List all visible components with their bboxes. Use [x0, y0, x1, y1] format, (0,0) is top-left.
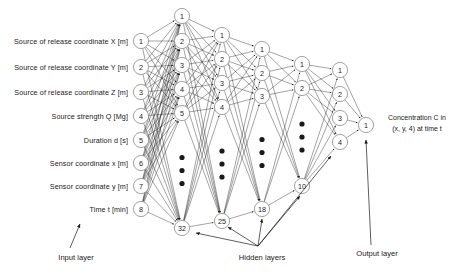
node-input-layer-7: 7: [133, 178, 148, 193]
svg-text:25: 25: [218, 217, 226, 226]
svg-text:1: 1: [300, 60, 304, 69]
svg-text:2: 2: [220, 55, 224, 64]
input-label-2: Source of release coordinate Y [m]: [14, 63, 128, 72]
input-label-7: Sensor coordinate y [m]: [50, 182, 128, 191]
svg-text:6: 6: [139, 159, 143, 168]
caption-hidden-layers: Hidden layers: [239, 253, 285, 262]
node-input-layer-2: 2: [133, 59, 148, 74]
svg-text:1: 1: [338, 66, 342, 75]
node-output-layer-2: 2: [332, 86, 347, 101]
svg-text:1: 1: [139, 37, 143, 46]
node-hidden-layer-3-18: 18: [254, 201, 269, 216]
node-output-layer-4: 4: [332, 134, 347, 149]
svg-text:7: 7: [139, 182, 143, 191]
node-final-output-1: 1: [358, 117, 373, 132]
caption-input-layer: Input layer: [58, 253, 93, 262]
node-hidden-layer-1-5: 5: [174, 105, 189, 120]
node-output-layer-1: 1: [332, 62, 347, 77]
svg-text:4: 4: [180, 85, 184, 94]
node-input-layer-6: 6: [133, 155, 148, 170]
node-hidden-layer-1-1: 1: [174, 8, 189, 23]
svg-text:2: 2: [338, 90, 342, 99]
input-label-8: Time t [min]: [90, 205, 128, 214]
node-hidden-layer-3-1: 1: [254, 41, 269, 56]
node-hidden-layer-2-4: 4: [214, 99, 229, 114]
input-label-4: Source strength Q [Mg]: [51, 112, 128, 121]
caption-output-layer: Output layer: [356, 249, 397, 258]
svg-text:5: 5: [139, 136, 143, 145]
svg-text:10: 10: [298, 182, 306, 191]
node-hidden-layer-1-2: 2: [174, 33, 189, 48]
svg-text:1: 1: [220, 31, 224, 40]
node-hidden-layer-3-3: 3: [254, 88, 269, 103]
node-input-layer-8: 8: [133, 201, 148, 216]
node-hidden-layer-4-2: 2: [294, 80, 309, 95]
node-hidden-layer-2-25: 25: [214, 213, 229, 228]
node-hidden-layer-2-2: 2: [214, 51, 229, 66]
svg-text:4: 4: [338, 138, 342, 147]
svg-text:1: 1: [180, 12, 184, 21]
svg-text:3: 3: [220, 79, 224, 88]
svg-text:8: 8: [139, 205, 143, 214]
svg-text:4: 4: [220, 103, 224, 112]
neural-network-diagram: 12345678123453212342512318121012341 Sour…: [0, 0, 471, 279]
node-hidden-layer-1-32: 32: [174, 220, 189, 235]
input-label-3: Source of release coordinate Z [m]: [14, 88, 128, 97]
node-hidden-layer-2-1: 1: [214, 27, 229, 42]
node-input-layer-4: 4: [133, 108, 148, 123]
output-label-line1: Concentration C in: [388, 114, 446, 121]
svg-text:18: 18: [258, 205, 266, 214]
node-input-layer-1: 1: [133, 33, 148, 48]
svg-text:3: 3: [338, 114, 342, 123]
node-hidden-layer-1-4: 4: [174, 81, 189, 96]
svg-text:3: 3: [139, 88, 143, 97]
svg-text:2: 2: [139, 63, 143, 72]
svg-text:2: 2: [180, 37, 184, 46]
output-label: Concentration C in (x, y, 4) at time t: [388, 112, 446, 134]
output-label-line2: (x, y, 4) at time t: [392, 125, 442, 132]
svg-text:2: 2: [300, 84, 304, 93]
svg-text:1: 1: [364, 121, 368, 130]
node-input-layer-5: 5: [133, 132, 148, 147]
node-hidden-layer-2-3: 3: [214, 75, 229, 90]
node-hidden-layer-3-2: 2: [254, 65, 269, 80]
svg-text:2: 2: [260, 69, 264, 78]
svg-text:5: 5: [180, 109, 184, 118]
node-hidden-layer-1-3: 3: [174, 57, 189, 72]
svg-text:4: 4: [139, 112, 143, 121]
svg-text:32: 32: [178, 224, 186, 233]
node-hidden-layer-4-1: 1: [294, 56, 309, 71]
svg-text:1: 1: [260, 45, 264, 54]
node-output-layer-3: 3: [332, 110, 347, 125]
node-input-layer-3: 3: [133, 84, 148, 99]
input-label-6: Sensor coordinate x [m]: [50, 159, 128, 168]
input-label-1: Source of release coordinate X [m]: [14, 37, 128, 46]
input-label-5: Duration d [s]: [84, 136, 128, 145]
svg-text:3: 3: [180, 61, 184, 70]
svg-text:3: 3: [260, 92, 264, 101]
